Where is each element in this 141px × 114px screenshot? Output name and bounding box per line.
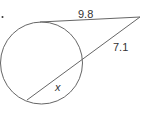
chord-variable-label: x [54,81,61,93]
secant-line [27,17,140,100]
secant-external-label: 7.1 [113,41,128,53]
circle [1,22,83,104]
tangent-length-label: 9.8 [78,8,93,20]
bullet-dot [2,16,4,18]
geometry-diagram: 9.8 7.1 x [0,0,141,114]
